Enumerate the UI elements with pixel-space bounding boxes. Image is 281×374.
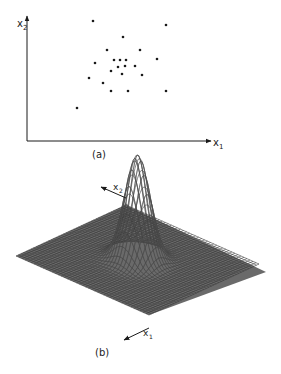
data-point <box>119 59 122 62</box>
data-point <box>122 36 125 39</box>
data-point <box>165 24 168 27</box>
x-axis-sub: 1 <box>219 143 223 151</box>
panel-a-scatter: x 2 x 1 (a) <box>17 16 223 160</box>
data-point <box>117 66 120 69</box>
data-point <box>110 70 113 73</box>
x1-sub: 1 <box>149 333 153 340</box>
caption-a: (a) <box>92 149 106 160</box>
data-point <box>113 59 116 62</box>
data-point <box>127 90 130 93</box>
scatter-points <box>76 20 168 110</box>
data-point <box>134 65 137 68</box>
data-point <box>124 65 127 68</box>
x2-sub: 2 <box>119 187 123 194</box>
data-point <box>141 74 144 77</box>
data-point <box>156 58 159 61</box>
data-point <box>165 90 168 93</box>
data-point <box>110 90 113 93</box>
data-point <box>102 82 105 85</box>
data-point <box>125 59 128 62</box>
data-point <box>121 73 124 76</box>
data-point <box>94 62 97 65</box>
panel-b-surface: x 2 x 1 (b) <box>16 155 266 358</box>
data-point <box>88 77 91 80</box>
data-point <box>139 49 142 52</box>
y-axis-sub: 2 <box>23 24 27 32</box>
caption-b: (b) <box>95 347 109 358</box>
gaussian-surface-mesh <box>16 155 266 315</box>
figure: x 2 x 1 (a) x 2 x 1 (b) <box>0 0 281 374</box>
data-point <box>106 49 109 52</box>
data-point <box>92 20 95 23</box>
data-point <box>76 107 79 110</box>
